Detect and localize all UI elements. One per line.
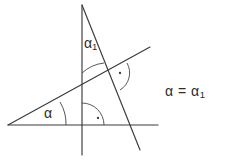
diagram-canvas: α1 α α = α1 [0, 0, 240, 162]
right-angle-dot-intersection [119, 72, 121, 74]
geometry-figure [0, 0, 240, 162]
figure-background [0, 0, 240, 162]
right-angle-dot-origin [97, 117, 99, 119]
